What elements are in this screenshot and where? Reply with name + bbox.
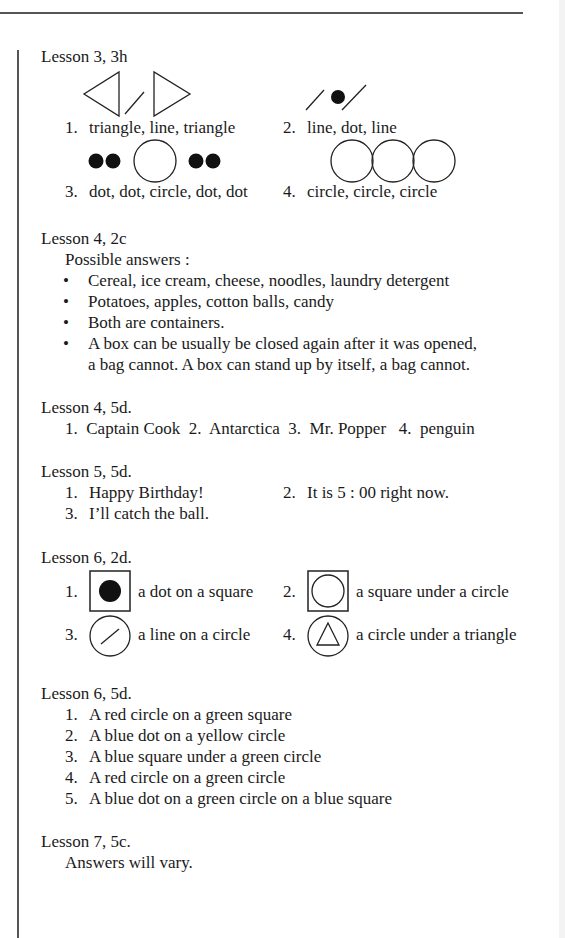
list-item-text: a dot on a square [138,582,253,602]
section-heading-lesson-7-5c: Lesson 7, 5c. [41,832,131,852]
bullet-text: Cereal, ice cream, cheese, noodles, laun… [88,271,449,291]
list-item-text: dot, dot, circle, dot, dot [89,182,248,202]
list-item-num: 1. [65,705,78,725]
bullet-icon: • [63,334,69,354]
list-item-num: 2. [65,726,78,746]
list-item-num: 3. [65,747,78,767]
list-item-text: A red circle on a green circle [89,768,285,788]
triangle-line-triangle-figure [82,70,192,120]
bullet-text: Both are containers. [88,313,224,333]
circle-under-triangle-icon [306,614,350,658]
list-item-text: a circle under a triangle [356,625,516,645]
list-item-text: A blue dot on a yellow circle [89,726,285,746]
section-heading-lesson-4-5d: Lesson 4, 5d. [41,398,132,418]
square-under-circle-icon [307,570,349,612]
top-rule [0,12,523,14]
section-heading-lesson-6-2d: Lesson 6, 2d. [41,548,132,568]
bullet-icon: • [63,313,69,333]
list-item-num: 5. [65,789,78,809]
list-item-num: 3. [65,504,78,524]
line-on-circle-icon [88,614,132,658]
list-item-num: 4. [283,625,296,645]
list-item-num: 1. [65,483,78,503]
list-item-num: 3. [65,182,78,202]
line-dot-line-figure [304,80,368,114]
list-item-num: 3. [65,625,78,645]
list-item-text: triangle, line, triangle [89,118,235,138]
section-heading-lesson-3-3h: Lesson 3, 3h [41,47,127,67]
list-item-num: 1. [65,582,78,602]
bullet-text: Potatoes, apples, cotton balls, candy [88,292,334,312]
list-item-text: circle, circle, circle [307,182,437,202]
bullet-icon: • [63,292,69,312]
left-margin-rule [17,50,19,938]
bullet-icon: • [63,271,69,291]
section-heading-lesson-5-5d: Lesson 5, 5d. [41,462,132,482]
possible-answers-label: Possible answers : [65,250,190,270]
section-heading-lesson-6-5d: Lesson 6, 5d. [41,684,132,704]
page-edge-shadow [559,0,565,938]
list-item-text: Happy Birthday! [89,483,204,503]
list-item-text: A red circle on a green square [89,705,292,725]
list-item-text: a square under a circle [356,582,509,602]
list-item-text: I’ll catch the ball. [89,504,209,524]
section-heading-lesson-4-2c: Lesson 4, 2c [41,229,126,249]
list-item-num: 2. [283,118,296,138]
circle-circle-circle-figure [330,140,460,184]
list-item-text: It is 5 : 00 right now. [307,483,449,503]
dot-on-square-icon [89,570,131,612]
list-item-text: A blue square under a green circle [89,747,321,767]
bullet-text-continuation: a bag cannot. A box can stand up by itse… [88,355,470,375]
list-item-text: a line on a circle [138,625,250,645]
dot-dot-circle-dot-dot-figure [88,140,228,184]
list-item-num: 2. [283,483,296,503]
list-item-num: 4. [283,182,296,202]
list-item-num: 1. [65,118,78,138]
answer-line: 1. Captain Cook 2. Antarctica 3. Mr. Pop… [65,419,475,439]
list-item-num: 2. [283,582,296,602]
list-item-num: 4. [65,768,78,788]
bullet-text: A box can be usually be closed again aft… [88,334,477,354]
answer-text: Answers will vary. [65,853,193,873]
list-item-text: line, dot, line [307,118,397,138]
list-item-text: A blue dot on a green circle on a blue s… [89,789,392,809]
